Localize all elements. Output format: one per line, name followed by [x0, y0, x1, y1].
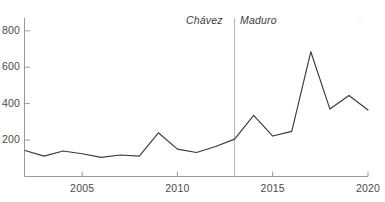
x-axis-tick-label: 2005 [59, 182, 105, 194]
corner-watermark-icon: ⌐ [358, 16, 365, 25]
x-axis-tick-label: 2020 [345, 182, 385, 194]
annotation-chavez: Chávez [186, 14, 223, 26]
y-axis-tick-label: 800 [0, 24, 20, 36]
data-series-line [25, 52, 368, 158]
y-axis-tick-label: 200 [0, 133, 20, 145]
x-axis-tick-label: 2015 [250, 182, 296, 194]
annotation-maduro: Maduro [240, 14, 277, 26]
x-axis-ticks [82, 172, 368, 177]
y-axis-tick-label: 600 [0, 60, 20, 72]
y-axis-tick-label: 400 [0, 97, 20, 109]
x-axis-tick-label: 2010 [154, 182, 200, 194]
y-axis-ticks [25, 31, 30, 140]
